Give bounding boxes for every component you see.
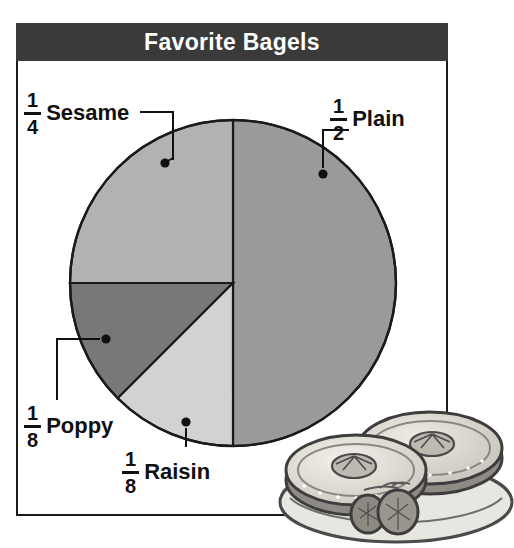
fraction-numerator: 1 xyxy=(330,96,347,117)
pie-label-raisin: 1 8 Raisin xyxy=(122,449,210,496)
pie-label-raisin-text: Raisin xyxy=(144,459,210,485)
pie-chart: 1 4 Sesame 1 2 Plain 1 8 Poppy 1 8 Raisi… xyxy=(0,0,514,548)
pie-label-plain-text: Plain xyxy=(352,106,405,132)
pie-label-plain: 1 2 Plain xyxy=(330,96,405,143)
fraction-bar xyxy=(24,425,41,428)
fraction-denominator: 8 xyxy=(24,429,41,450)
fraction-one-half: 1 2 xyxy=(330,96,347,143)
fraction-denominator: 8 xyxy=(122,475,139,496)
fraction-numerator: 1 xyxy=(122,449,139,470)
fraction-one-eighth: 1 8 xyxy=(24,403,41,450)
fraction-numerator: 1 xyxy=(24,90,41,111)
fraction-bar xyxy=(24,112,41,115)
fraction-one-eighth: 1 8 xyxy=(122,449,139,496)
fraction-bar xyxy=(330,118,347,121)
fraction-one-fourth: 1 4 xyxy=(24,90,41,137)
fraction-denominator: 2 xyxy=(330,122,347,143)
pie-label-poppy: 1 8 Poppy xyxy=(24,403,113,450)
pie-label-poppy-text: Poppy xyxy=(46,413,113,439)
pie-label-sesame-text: Sesame xyxy=(46,100,129,126)
pie-label-sesame: 1 4 Sesame xyxy=(24,90,129,137)
fraction-denominator: 4 xyxy=(24,116,41,137)
fraction-bar xyxy=(122,471,139,474)
pie-slice-sesame[interactable] xyxy=(70,120,233,283)
fraction-numerator: 1 xyxy=(24,403,41,424)
bagels-illustration-icon xyxy=(268,398,514,548)
